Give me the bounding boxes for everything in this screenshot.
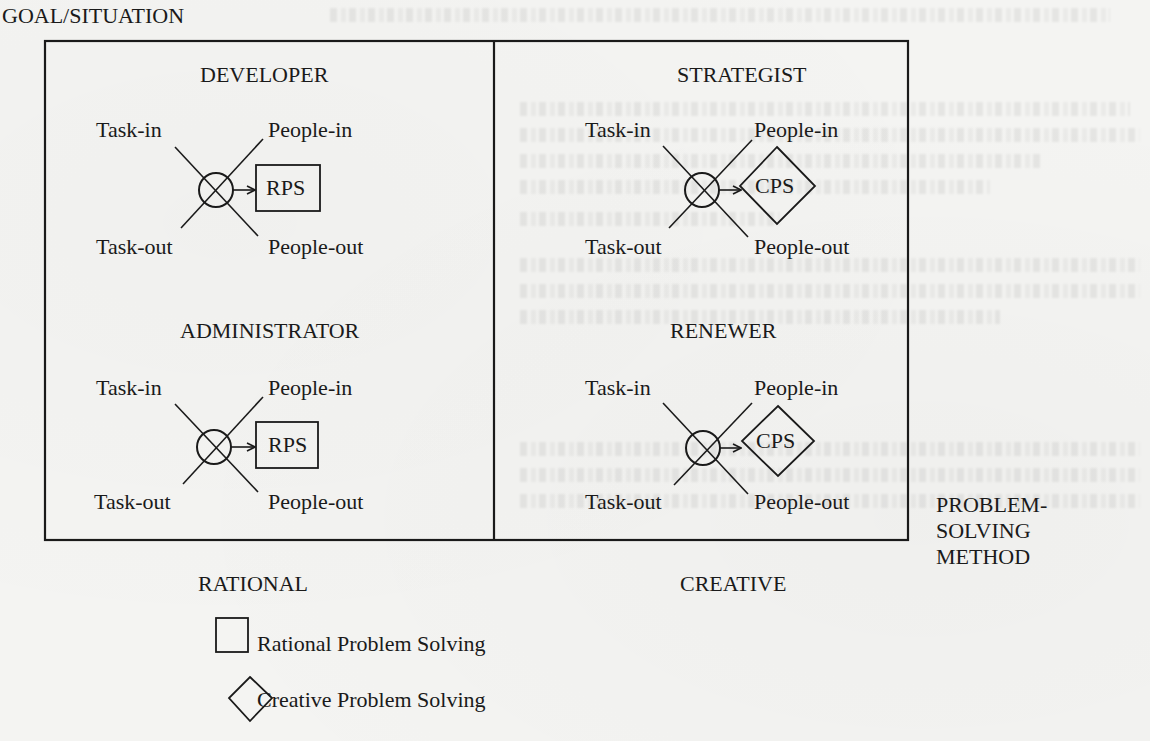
quadrant-title-renewer: RENEWER (670, 320, 776, 342)
port-label-people-out: People-out (268, 236, 363, 258)
legend-label-rational: Rational Problem Solving (257, 633, 486, 655)
quadrant-diagram (0, 0, 1150, 741)
port-label-task-in: Task-in (96, 119, 162, 141)
legend-square-icon (216, 618, 248, 652)
port-label-task-out: Task-out (585, 491, 662, 513)
quadrant-title-developer: DEVELOPER (200, 64, 328, 86)
port-label-people-out: People-out (268, 491, 363, 513)
port-label-task-out: Task-out (94, 491, 171, 513)
port-label-task-out: Task-out (585, 236, 662, 258)
method-label-rps: RPS (266, 177, 305, 199)
port-label-people-in: People-in (754, 377, 838, 399)
method-label-rps: RPS (268, 434, 307, 456)
port-label-task-in: Task-in (96, 377, 162, 399)
port-label-task-in: Task-in (585, 377, 651, 399)
quadrant-title-administrator: ADMINISTRATOR (180, 320, 359, 342)
port-label-people-in: People-in (268, 119, 352, 141)
port-label-people-out: People-out (754, 491, 849, 513)
method-label-cps: CPS (755, 175, 794, 197)
port-label-task-out: Task-out (96, 236, 173, 258)
method-label-cps: CPS (756, 430, 795, 452)
port-label-people-in: People-in (754, 119, 838, 141)
port-label-people-in: People-in (268, 377, 352, 399)
quadrant-title-strategist: STRATEGIST (677, 64, 807, 86)
port-label-people-out: People-out (754, 236, 849, 258)
quadrant-frame (45, 41, 908, 540)
port-label-task-in: Task-in (585, 119, 651, 141)
legend-label-creative: Creative Problem Solving (257, 689, 486, 711)
